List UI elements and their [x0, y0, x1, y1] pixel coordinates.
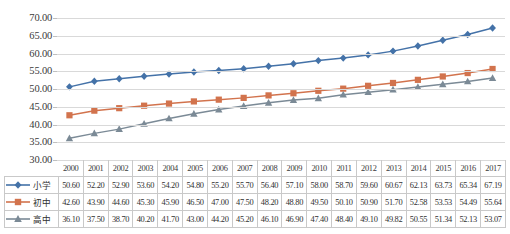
data-point-marker	[390, 80, 396, 86]
legend-row-header[interactable]: 小学	[5, 177, 59, 194]
gridline	[57, 107, 505, 108]
table-cell-value: 49.50	[307, 194, 332, 211]
table-cell-value: 62.13	[406, 177, 431, 194]
series-square	[66, 66, 495, 118]
table-cell-value: 56.40	[257, 177, 282, 194]
table-cell-value: 46.10	[257, 211, 282, 228]
data-point-marker	[216, 97, 222, 103]
data-point-marker	[415, 77, 421, 83]
series-layer	[57, 0, 505, 162]
table-cell-value: 50.60	[59, 177, 84, 194]
table-cell-value: 54.80	[183, 177, 208, 194]
data-point-marker	[66, 112, 72, 118]
legend-row-header[interactable]: 初中	[5, 194, 59, 211]
data-point-marker	[365, 83, 371, 89]
data-point-marker	[414, 42, 421, 49]
table-cell-value: 37.50	[83, 211, 108, 228]
gridline	[57, 125, 505, 126]
table-cell-value: 38.70	[108, 211, 133, 228]
x-axis-year-label: 2005	[183, 160, 208, 177]
table-cell-value: 50.55	[406, 211, 431, 228]
table-cell-value: 47.50	[232, 194, 257, 211]
x-axis-year-label: 2013	[381, 160, 406, 177]
data-table-wrap: 2000200120022003200420052006200720082009…	[4, 160, 506, 228]
table-corner-cell	[5, 160, 59, 177]
data-point-marker	[141, 73, 148, 80]
data-point-marker	[290, 60, 297, 67]
table-cell-value: 53.07	[481, 211, 506, 228]
table-cell-value: 36.10	[59, 211, 84, 228]
x-axis-year-label: 2008	[257, 160, 282, 177]
data-point-marker	[191, 98, 197, 104]
table-header-row: 2000200120022003200420052006200720082009…	[5, 160, 506, 177]
data-point-marker	[141, 103, 147, 109]
chart-page: 30.0035.0040.0045.0050.0055.0060.0065.00…	[0, 0, 510, 234]
x-axis-year-label: 2015	[431, 160, 456, 177]
y-axis-tick-label: 45.00	[29, 102, 52, 113]
table-cell-value: 55.64	[481, 194, 506, 211]
data-point-marker	[91, 77, 98, 84]
y-axis-tick	[53, 125, 57, 126]
table-cell-value: 54.49	[456, 194, 481, 211]
table-cell-value: 53.60	[133, 177, 158, 194]
table-cell-value: 46.50	[183, 194, 208, 211]
y-axis-tick	[53, 54, 57, 55]
table-cell-value: 49.10	[356, 211, 381, 228]
table-cell-value: 60.67	[381, 177, 406, 194]
series-line	[69, 78, 492, 138]
legend-label: 初中	[33, 196, 51, 208]
y-axis-tick-label: 65.00	[29, 31, 52, 42]
data-point-marker	[440, 73, 446, 79]
gridline	[57, 142, 505, 143]
data-point-marker	[315, 57, 322, 64]
legend-label: 高中	[33, 213, 51, 225]
table-cell-value: 48.40	[332, 211, 357, 228]
gridline	[57, 54, 505, 55]
data-point-marker	[116, 75, 123, 82]
table-cell-value: 52.13	[456, 211, 481, 228]
y-axis-tick	[53, 89, 57, 90]
table-cell-value: 52.58	[406, 194, 431, 211]
x-axis-year-label: 2016	[456, 160, 481, 177]
table-cell-value: 40.20	[133, 211, 158, 228]
data-point-marker	[340, 54, 347, 61]
legend-marker-icon	[5, 196, 31, 208]
gridline	[57, 36, 505, 37]
gridline	[57, 89, 505, 90]
data-point-marker	[439, 37, 446, 44]
y-axis-tick-label: 55.00	[29, 66, 52, 77]
x-axis-year-label: 2001	[83, 160, 108, 177]
table-cell-value: 45.90	[158, 194, 183, 211]
table-cell-value: 51.34	[431, 211, 456, 228]
table-cell-value: 47.00	[207, 194, 232, 211]
x-axis-year-label: 2017	[481, 160, 506, 177]
table-cell-value: 51.70	[381, 194, 406, 211]
table-cell-value: 48.20	[257, 194, 282, 211]
y-axis-tick-label: 60.00	[29, 48, 52, 59]
legend-marker-icon	[5, 179, 31, 191]
data-point-marker	[265, 92, 271, 98]
x-axis-year-label: 2006	[207, 160, 232, 177]
table-cell-value: 41.70	[158, 211, 183, 228]
table-cell-value: 52.20	[83, 177, 108, 194]
y-axis-tick-label: 50.00	[29, 84, 52, 95]
table-row: 小学50.6052.2052.9053.6054.2054.8055.2055.…	[5, 177, 506, 194]
table-row: 初中42.6043.9044.6045.3045.9046.5047.0047.…	[5, 194, 506, 211]
table-cell-value: 49.82	[381, 211, 406, 228]
y-axis-labels: 30.0035.0040.0045.0050.0055.0060.0065.00…	[0, 0, 56, 162]
table-cell-value: 46.90	[282, 211, 307, 228]
data-table: 2000200120022003200420052006200720082009…	[4, 160, 506, 228]
table-cell-value: 58.00	[307, 177, 332, 194]
x-axis-year-label: 2004	[158, 160, 183, 177]
table-cell-value: 43.90	[83, 194, 108, 211]
legend-row-header[interactable]: 高中	[5, 211, 59, 228]
table-cell-value: 50.10	[332, 194, 357, 211]
data-point-marker	[489, 74, 496, 81]
data-point-marker	[265, 63, 272, 70]
gridline	[57, 71, 505, 72]
x-axis-year-label: 2010	[307, 160, 332, 177]
x-axis-year-label: 2009	[282, 160, 307, 177]
table-cell-value: 54.20	[158, 177, 183, 194]
x-axis-year-label: 2014	[406, 160, 431, 177]
data-point-marker	[166, 100, 172, 106]
